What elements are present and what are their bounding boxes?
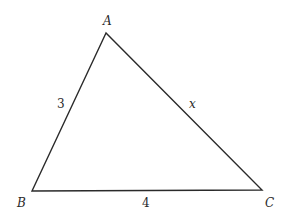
triangle-abc xyxy=(32,33,262,191)
side-label-bc: 4 xyxy=(142,196,150,210)
triangle-svg: A B C 3 4 x xyxy=(0,0,285,211)
vertex-label-c: C xyxy=(265,196,274,210)
vertex-label-a: A xyxy=(102,14,112,28)
triangle-diagram: A B C 3 4 x xyxy=(0,0,285,211)
vertex-label-b: B xyxy=(16,196,26,210)
side-label-ab: 3 xyxy=(57,97,65,111)
side-label-ac: x xyxy=(189,97,196,111)
